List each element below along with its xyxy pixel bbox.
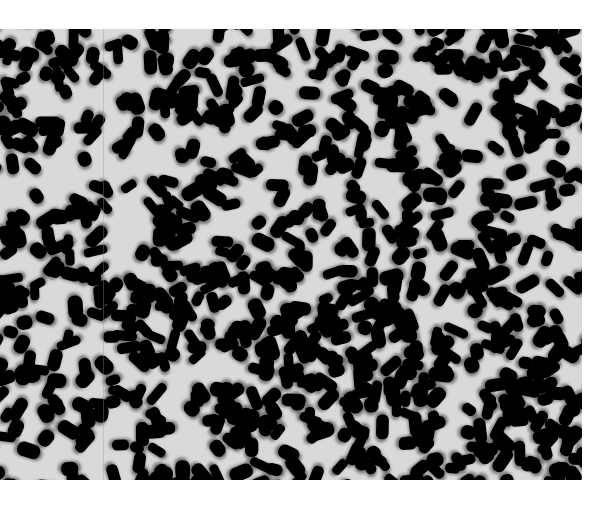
stitch-seam [103, 29, 104, 480]
particles-layer [0, 29, 582, 480]
particle-photo [0, 29, 582, 480]
